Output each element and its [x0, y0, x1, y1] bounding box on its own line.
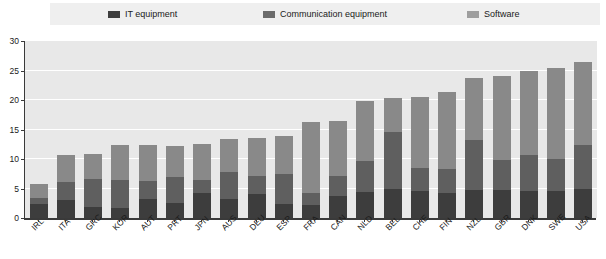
- x-tick-mark: [528, 218, 529, 222]
- bar-segment-comm: [220, 172, 238, 199]
- legend-swatch-it-equipment: [108, 11, 120, 18]
- bar-segment-comm: [493, 160, 511, 191]
- bar-ita[interactable]: [57, 155, 75, 218]
- bar-segment-software: [302, 122, 320, 192]
- bar-segment-comm: [193, 180, 211, 192]
- x-tick-mark: [419, 218, 420, 222]
- x-tick-mark: [501, 218, 502, 222]
- bar-usa[interactable]: [574, 62, 592, 218]
- legend-item-it-equipment: IT equipment: [108, 9, 177, 19]
- x-tick-mark: [310, 218, 311, 222]
- bar-nld[interactable]: [356, 101, 374, 218]
- legend-label-communication-equipment: Communication equipment: [280, 9, 387, 19]
- y-tick-label: 30: [1, 37, 19, 45]
- bar-segment-comm: [465, 140, 483, 191]
- bar-segment-software: [493, 76, 511, 159]
- legend-swatch-communication-equipment: [263, 11, 275, 18]
- x-tick-mark: [337, 218, 338, 222]
- bar-prt[interactable]: [166, 146, 184, 218]
- bar-nzl[interactable]: [465, 78, 483, 218]
- bar-segment-software: [465, 78, 483, 140]
- bar-segment-software: [248, 138, 266, 176]
- bar-segment-software: [547, 68, 565, 159]
- bar-aut[interactable]: [139, 145, 157, 218]
- bar-grc[interactable]: [84, 154, 102, 218]
- bar-segment-software: [57, 155, 75, 182]
- y-tick-label: 20: [1, 96, 19, 104]
- bar-segment-software: [220, 139, 238, 172]
- bar-segment-software: [520, 71, 538, 155]
- bar-segment-software: [411, 97, 429, 168]
- x-tick-mark: [174, 218, 175, 222]
- bar-irl[interactable]: [30, 184, 48, 218]
- chart-legend: IT equipment Communication equipment Sof…: [50, 3, 600, 25]
- bar-segment-comm: [84, 179, 102, 207]
- x-tick-mark: [38, 218, 39, 222]
- x-tick-mark: [473, 218, 474, 222]
- bar-segment-it: [493, 190, 511, 218]
- bar-bel[interactable]: [384, 98, 402, 218]
- bar-segment-comm: [111, 180, 129, 208]
- x-tick-mark: [555, 218, 556, 222]
- bar-segment-comm: [438, 169, 456, 193]
- x-tick-mark: [582, 218, 583, 222]
- bar-segment-comm: [384, 132, 402, 189]
- legend-item-communication-equipment: Communication equipment: [263, 9, 387, 19]
- bar-segment-comm: [547, 159, 565, 191]
- bar-segment-software: [329, 121, 347, 175]
- bar-aus[interactable]: [220, 139, 238, 218]
- bar-segment-software: [111, 145, 129, 179]
- y-tick-label: 10: [1, 155, 19, 163]
- bar-segment-comm: [139, 181, 157, 199]
- legend-swatch-software: [467, 11, 479, 18]
- bar-segment-software: [139, 145, 157, 180]
- bar-che[interactable]: [411, 97, 429, 218]
- bar-segment-software: [275, 136, 293, 174]
- bar-swe[interactable]: [547, 68, 565, 218]
- x-tick-mark: [65, 218, 66, 222]
- bar-can[interactable]: [329, 121, 347, 218]
- x-tick-mark: [201, 218, 202, 222]
- gridline: [25, 70, 597, 71]
- bar-segment-comm: [411, 168, 429, 190]
- x-tick-mark: [147, 218, 148, 222]
- bar-segment-comm: [302, 193, 320, 205]
- x-tick-mark: [446, 218, 447, 222]
- bar-segment-comm: [57, 182, 75, 200]
- bar-segment-software: [84, 154, 102, 179]
- legend-item-software: Software: [467, 9, 520, 19]
- bar-segment-comm: [248, 176, 266, 194]
- bar-gbr[interactable]: [493, 76, 511, 218]
- bar-segment-software: [166, 146, 184, 177]
- bar-kor[interactable]: [111, 145, 129, 218]
- y-tick-label: 0: [1, 214, 19, 222]
- bar-segment-software: [30, 184, 48, 198]
- bar-segment-comm: [520, 155, 538, 190]
- bar-fin[interactable]: [438, 92, 456, 218]
- bar-segment-comm: [329, 176, 347, 196]
- bar-segment-software: [384, 98, 402, 132]
- bar-segment-comm: [574, 145, 592, 188]
- bar-esp[interactable]: [275, 136, 293, 218]
- x-tick-mark: [283, 218, 284, 222]
- stacked-bar-chart: IT equipment Communication equipment Sof…: [0, 0, 606, 259]
- x-tick-mark: [364, 218, 365, 222]
- y-tick-label: 5: [1, 185, 19, 193]
- legend-label-software: Software: [484, 9, 520, 19]
- bar-segment-software: [193, 144, 211, 181]
- gridline: [25, 99, 597, 100]
- y-tick-label: 15: [1, 126, 19, 134]
- bar-segment-it: [384, 189, 402, 218]
- x-tick-mark: [228, 218, 229, 222]
- x-tick-mark: [92, 218, 93, 222]
- bar-jpn[interactable]: [193, 144, 211, 218]
- bar-fra[interactable]: [302, 122, 320, 218]
- bar-segment-software: [438, 92, 456, 169]
- bar-segment-it: [57, 200, 75, 218]
- bar-segment-comm: [166, 177, 184, 202]
- x-tick-mark: [256, 218, 257, 222]
- x-tick-mark: [119, 218, 120, 222]
- bar-segment-software: [574, 62, 592, 146]
- bar-dnk[interactable]: [520, 71, 538, 218]
- bar-deu[interactable]: [248, 138, 266, 218]
